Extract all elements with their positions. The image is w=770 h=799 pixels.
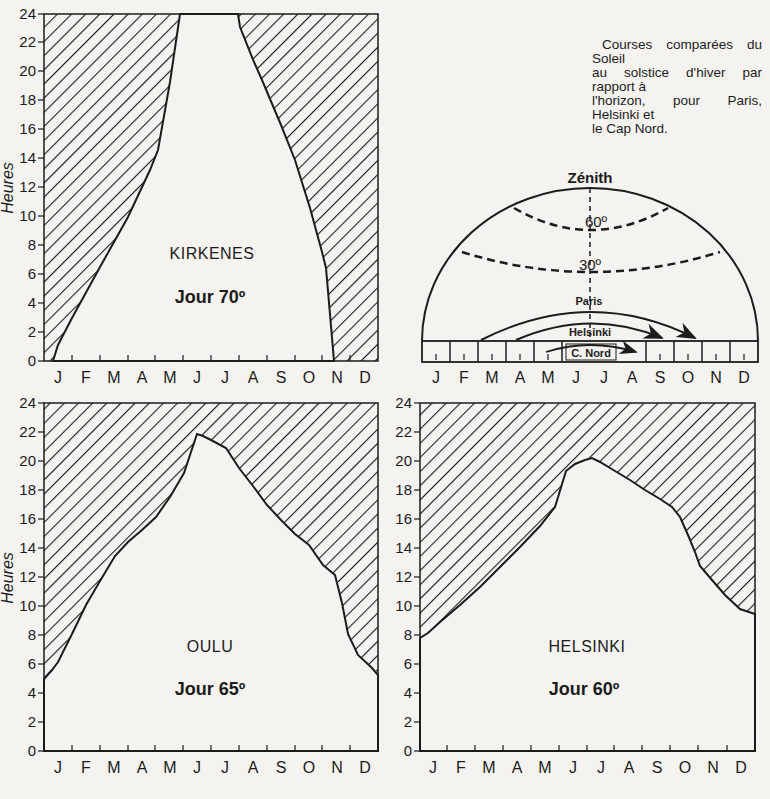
svg-text:A: A xyxy=(248,369,259,386)
svg-text:N: N xyxy=(710,369,722,386)
chart-oulu: 0 2 4 6 8 10 12 14 16 18 20 22 24 xyxy=(0,394,378,776)
svg-text:22: 22 xyxy=(395,423,412,440)
svg-text:A: A xyxy=(627,369,638,386)
svg-text:A: A xyxy=(137,759,148,776)
svg-text:A: A xyxy=(624,759,635,776)
svg-text:M: M xyxy=(163,369,176,386)
svg-text:J: J xyxy=(221,369,229,386)
svg-text:2: 2 xyxy=(28,323,36,340)
diagram-caption: Courses comparées du Soleil au solstice … xyxy=(592,38,762,136)
x-axis-months: J F M A M J J A S O N D xyxy=(54,759,371,776)
svg-text:0: 0 xyxy=(404,742,412,759)
svg-text:20: 20 xyxy=(395,452,412,469)
svg-text:8: 8 xyxy=(28,236,36,253)
svg-text:14: 14 xyxy=(395,539,412,556)
svg-text:10: 10 xyxy=(19,207,36,224)
svg-text:O: O xyxy=(679,759,691,776)
svg-text:A: A xyxy=(512,759,523,776)
svg-text:6: 6 xyxy=(404,655,412,672)
caption-line: le Cap Nord. xyxy=(592,122,762,136)
svg-text:12: 12 xyxy=(19,178,36,195)
svg-text:S: S xyxy=(655,369,666,386)
svg-text:20: 20 xyxy=(19,452,36,469)
svg-text:16: 16 xyxy=(19,510,36,527)
svg-text:J: J xyxy=(221,759,229,776)
svg-text:4: 4 xyxy=(404,684,412,701)
svg-text:24: 24 xyxy=(19,5,36,22)
zenith-label: Zénith xyxy=(568,169,613,186)
svg-text:O: O xyxy=(303,369,315,386)
svg-text:18: 18 xyxy=(19,481,36,498)
latitude-label: Jour 65º xyxy=(175,679,246,699)
svg-text:M: M xyxy=(541,369,554,386)
svg-text:22: 22 xyxy=(19,33,36,50)
svg-text:N: N xyxy=(707,759,719,776)
path-label-helsinki: Helsinki xyxy=(569,326,611,338)
svg-text:18: 18 xyxy=(395,481,412,498)
svg-text:18: 18 xyxy=(19,91,36,108)
svg-text:S: S xyxy=(276,759,287,776)
svg-text:F: F xyxy=(459,369,469,386)
svg-text:J: J xyxy=(429,759,437,776)
city-name: HELSINKI xyxy=(549,638,626,655)
svg-text:8: 8 xyxy=(28,626,36,643)
angle-60-label: 60º xyxy=(585,213,608,230)
svg-text:M: M xyxy=(107,369,120,386)
svg-text:M: M xyxy=(485,369,498,386)
svg-text:O: O xyxy=(682,369,694,386)
svg-text:20: 20 xyxy=(19,62,36,79)
svg-text:J: J xyxy=(54,369,62,386)
chart-helsinki: 0 2 4 6 8 10 12 14 16 18 20 22 24 xyxy=(395,394,755,776)
svg-text:J: J xyxy=(569,759,577,776)
svg-text:A: A xyxy=(137,369,148,386)
svg-text:J: J xyxy=(193,369,201,386)
svg-text:10: 10 xyxy=(395,597,412,614)
svg-text:12: 12 xyxy=(395,568,412,585)
svg-text:0: 0 xyxy=(28,352,36,369)
svg-text:J: J xyxy=(54,759,62,776)
sun-path-diagram: Zénith 60º 30º Paris Helsinki C. Nord J … xyxy=(422,169,758,386)
y-axis: 0 2 4 6 8 10 12 14 16 18 20 22 24 xyxy=(19,394,44,759)
x-axis-months: J F M A M J J A S O N D xyxy=(429,759,747,776)
chart-kirkenes: 0 2 4 6 8 10 12 14 16 18 20 22 24 xyxy=(0,5,378,386)
diagram-months: J F M A M J J A S O N D xyxy=(432,369,750,386)
x-axis-months: J F M A M J J A S O N D xyxy=(54,369,371,386)
latitude-label: Jour 70º xyxy=(175,287,246,307)
svg-text:D: D xyxy=(735,759,747,776)
svg-text:2: 2 xyxy=(404,713,412,730)
caption-line: l'horizon, pour Paris, Helsinki et xyxy=(592,94,762,122)
svg-text:0: 0 xyxy=(28,742,36,759)
svg-text:J: J xyxy=(572,369,580,386)
svg-text:J: J xyxy=(600,369,608,386)
y-axis: 0 2 4 6 8 10 12 14 16 18 20 22 24 xyxy=(19,5,44,369)
svg-text:4: 4 xyxy=(28,684,36,701)
svg-text:N: N xyxy=(331,369,343,386)
caption-line: au solstice d'hiver par rapport à xyxy=(592,66,762,94)
svg-text:M: M xyxy=(163,759,176,776)
path-label-cap-nord: C. Nord xyxy=(571,347,611,359)
svg-text:S: S xyxy=(652,759,663,776)
y-axis-label: Heures xyxy=(0,552,16,604)
svg-text:J: J xyxy=(432,369,440,386)
svg-text:J: J xyxy=(597,759,605,776)
svg-text:A: A xyxy=(515,369,526,386)
svg-text:N: N xyxy=(331,759,343,776)
svg-text:J: J xyxy=(193,759,201,776)
y-axis: 0 2 4 6 8 10 12 14 16 18 20 22 24 xyxy=(395,394,420,759)
svg-text:14: 14 xyxy=(19,149,36,166)
svg-text:D: D xyxy=(359,369,371,386)
svg-text:S: S xyxy=(276,369,287,386)
svg-text:F: F xyxy=(456,759,466,776)
svg-text:8: 8 xyxy=(404,626,412,643)
svg-text:M: M xyxy=(482,759,495,776)
svg-text:24: 24 xyxy=(19,394,36,411)
svg-text:14: 14 xyxy=(19,539,36,556)
svg-text:D: D xyxy=(359,759,371,776)
svg-text:16: 16 xyxy=(395,510,412,527)
svg-text:22: 22 xyxy=(19,423,36,440)
latitude-label: Jour 60º xyxy=(549,679,620,699)
svg-text:24: 24 xyxy=(395,394,412,411)
svg-text:6: 6 xyxy=(28,655,36,672)
y-axis-label: Heures xyxy=(0,162,16,214)
svg-text:A: A xyxy=(248,759,259,776)
